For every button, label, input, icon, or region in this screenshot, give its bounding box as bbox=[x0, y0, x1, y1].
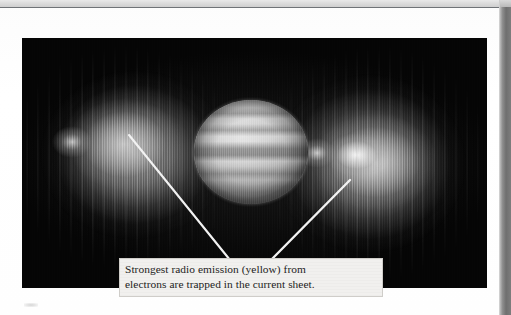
radio-telescope-photo bbox=[22, 38, 487, 288]
page-right-gutter-top-cap bbox=[500, 0, 511, 7]
page-right-gutter-strip bbox=[500, 0, 511, 315]
caption-line-1: Strongest radio emission (yellow) from bbox=[125, 262, 377, 277]
page-scan-smudge bbox=[24, 303, 38, 307]
caption-line-2: electrons are trapped in the current she… bbox=[125, 277, 377, 292]
right-leader-line bbox=[272, 180, 350, 259]
page-top-gutter-band bbox=[0, 0, 511, 7]
left-leader-line bbox=[129, 135, 230, 260]
leader-lines-group bbox=[22, 38, 487, 288]
page-top-rule bbox=[0, 7, 511, 8]
page-right-gutter-rule bbox=[499, 0, 500, 315]
scanned-page: Strongest radio emission (yellow) from e… bbox=[0, 0, 511, 315]
caption-callout-box: Strongest radio emission (yellow) from e… bbox=[119, 258, 383, 297]
